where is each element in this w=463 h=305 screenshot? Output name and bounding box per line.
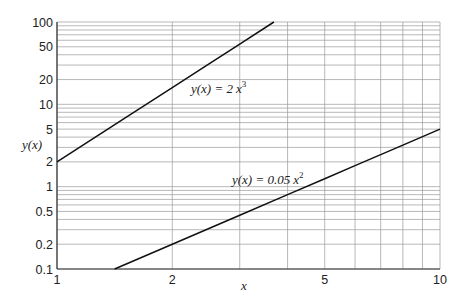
eq1-prefix: y(x) = 2 <box>189 81 233 96</box>
y-tick-label: 100 <box>32 16 53 30</box>
axes <box>57 22 440 269</box>
x-tick-label: 10 <box>433 273 447 287</box>
x-tick-label: 1 <box>54 273 61 287</box>
eq2-prefix: y(x) = 0.05 <box>230 172 291 187</box>
y-tick-label: 1 <box>46 180 53 194</box>
log-log-chart: 0.10.20.5125102050100 12510 x y(x) y(x) … <box>0 0 463 305</box>
y-tick-label: 5 <box>46 123 53 137</box>
y-tick-label: 50 <box>39 40 53 54</box>
y-tick-label: 0.1 <box>36 263 53 277</box>
y-tick-label: 0.5 <box>36 205 53 219</box>
x-tick-label: 5 <box>321 273 328 287</box>
y-tick-label: 10 <box>39 98 53 112</box>
x-tick-label: 2 <box>169 273 176 287</box>
x-axis-label: x <box>240 278 247 293</box>
x-axis-tick-labels: 12510 <box>54 273 447 287</box>
curves <box>57 22 440 269</box>
eq1-exponent: 3 <box>242 79 247 89</box>
y-tick-label: 20 <box>39 73 53 87</box>
curve-quadratic <box>115 129 440 269</box>
curve-label-cubic: y(x) = 2x3 <box>189 79 247 96</box>
y-axis-label: y(x) <box>20 137 42 152</box>
curve-label-quadratic: y(x) = 0.05x2 <box>230 170 304 187</box>
y-tick-label: 0.2 <box>36 238 53 252</box>
eq2-exponent: 2 <box>299 170 304 180</box>
grid-lines <box>57 22 440 269</box>
y-tick-label: 2 <box>46 155 53 169</box>
